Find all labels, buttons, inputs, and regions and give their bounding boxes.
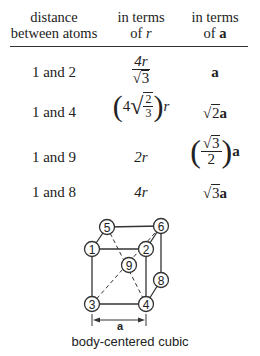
- svg-text:3: 3: [89, 298, 96, 312]
- svg-text:2: 2: [143, 243, 150, 257]
- atom-8: 8: [154, 273, 169, 288]
- svg-text:6: 6: [158, 220, 165, 234]
- atom-5: 5: [100, 220, 115, 235]
- dimension-label: a: [113, 320, 127, 332]
- svg-text:1: 1: [89, 243, 96, 257]
- atom-6: 6: [154, 219, 169, 234]
- svg-text:8: 8: [158, 274, 165, 288]
- atom-3: 3: [85, 297, 100, 312]
- atom-1: 1: [85, 242, 100, 257]
- atom-2: 2: [139, 242, 154, 257]
- svg-text:4: 4: [143, 298, 150, 312]
- atom-4: 4: [139, 297, 154, 312]
- diagram-caption: body-centered cubic: [0, 334, 260, 349]
- svg-text:9: 9: [126, 259, 133, 273]
- bcc-diagram: 5 6 1 2 9 8 3 4: [0, 0, 260, 356]
- atom-9: 9: [122, 258, 137, 273]
- svg-text:5: 5: [104, 221, 111, 235]
